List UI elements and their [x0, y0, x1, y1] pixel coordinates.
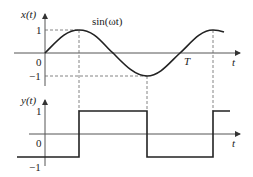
bottom-y-label: y(t) — [20, 94, 37, 107]
top-tick-0: 0 — [36, 56, 42, 68]
sine-label: sin(ωt) — [92, 15, 123, 28]
top-tick-neg1: −1 — [29, 70, 41, 82]
bottom-plot: y(t) 1 0 −1 t — [17, 94, 240, 173]
top-y-label: x(t) — [20, 8, 37, 21]
bottom-x-label: t — [232, 137, 236, 149]
top-plot: x(t) sin(ωt) 1 0 −1 T t — [14, 8, 240, 111]
bottom-tick-1: 1 — [36, 105, 42, 117]
period-label: T — [184, 55, 191, 67]
bottom-tick-neg1: −1 — [29, 161, 41, 173]
top-tick-1: 1 — [36, 24, 42, 36]
top-x-label: t — [232, 56, 236, 68]
sine-to-square-diagram: x(t) sin(ωt) 1 0 −1 T t y(t) 1 0 −1 t — [0, 0, 253, 177]
bottom-tick-0: 0 — [36, 137, 42, 149]
